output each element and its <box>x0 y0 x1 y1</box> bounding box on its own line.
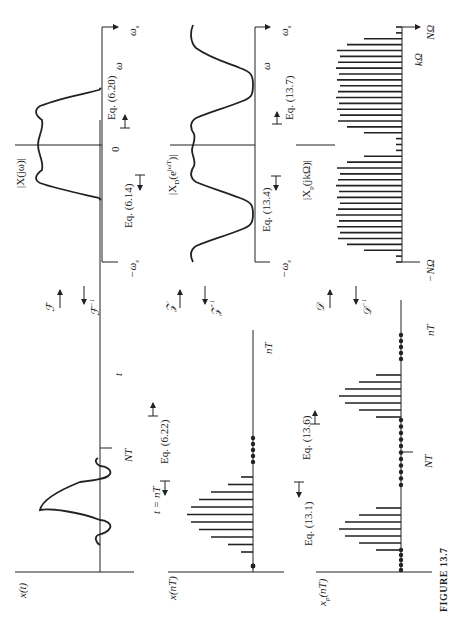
eq-13-7-label: Eq. (13.7) <box>283 76 295 120</box>
ct-spectrum-plot <box>15 27 118 262</box>
ct-spectrum-ylabel: |X(jω)| <box>14 158 26 188</box>
ct-signal-plot <box>15 120 134 572</box>
dt-spectrum-neg-limit: −ωs <box>278 260 293 278</box>
dft-forward-label: 𝒟 <box>314 303 327 312</box>
figure-caption: FIGURE 13.7 <box>438 548 449 612</box>
ct-signal-axis-var: t <box>112 373 124 376</box>
ct-spectrum-origin: 0 <box>109 147 121 153</box>
dft-inverse-label: 𝒟−1 <box>360 299 374 316</box>
eq-13-4-label: Eq. (13.4) <box>260 188 272 232</box>
dt-signal-ylabel: x(nT) <box>166 576 178 600</box>
dft-spectrum-pos-limit: NΩ <box>424 25 436 40</box>
eq-6-22-label: Eq. (6.22) <box>158 420 170 464</box>
ct-signal-period-marker: NT <box>122 449 134 462</box>
periodic-signal-ylabel: xp(nT) <box>316 579 331 606</box>
ct-spectrum-axis-var: ω <box>112 62 124 70</box>
fourier-inverse-label: ℱ−1 <box>88 299 102 316</box>
ct-spectrum-neg-limit: −ωs <box>126 260 141 278</box>
ct-signal-ylabel: x(t) <box>16 583 28 598</box>
dft-spectrum-neg-limit: −NΩ <box>424 259 436 282</box>
dft-spectrum-mid-label: kΩ <box>412 53 424 66</box>
eq-13-6-label: Eq. (13.6) <box>300 416 312 460</box>
dt-spectrum-pos-limit: ωs <box>278 25 293 36</box>
periodic-signal-axis-var: nT <box>424 324 436 336</box>
periodic-signal-plot <box>316 300 432 572</box>
dt-signal-axis-var: nT <box>262 342 274 354</box>
dft-spectrum-ylabel: |Xp(jkΩ)| <box>300 160 315 200</box>
dt-spectrum-ylabel: |XD(ejωT)| <box>165 155 181 195</box>
z-inverse-label: 𝒵−1 <box>208 300 222 316</box>
dt-spectrum-axis-var: ω <box>260 62 272 70</box>
dt-spectrum-plot <box>170 25 270 262</box>
dft-spectrum-plot <box>296 27 420 262</box>
eq-13-1-label: Eq. (13.1) <box>302 502 314 546</box>
periodic-signal-period-marker: NT <box>422 455 434 468</box>
figure-13-7-diagram <box>0 0 454 618</box>
eq-6-20-label: Eq. (6.20) <box>105 76 117 120</box>
ct-spectrum-pos-limit: ωs <box>126 25 141 36</box>
fourier-forward-label: ℱ <box>44 303 57 312</box>
z-forward-label: 𝒵 <box>164 304 177 312</box>
dt-signal-plot <box>168 330 284 572</box>
sampling-label: t = nT <box>150 486 162 514</box>
eq-6-14-label: Eq. (6.14) <box>122 184 134 228</box>
